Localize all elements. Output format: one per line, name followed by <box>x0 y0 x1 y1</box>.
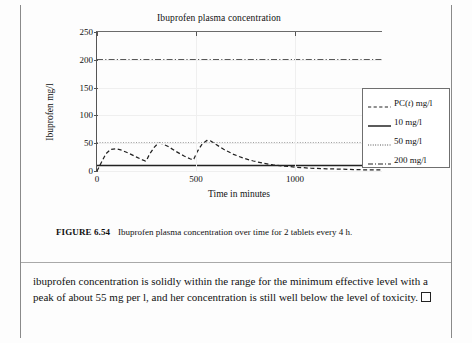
figure-6-54: Ibuprofen plasma concentration Ibuprofen… <box>20 5 452 262</box>
y-axis-tick-label: 200 <box>80 55 94 65</box>
gridline-horizontal <box>97 171 382 172</box>
chart-title: Ibuprofen plasma concentration <box>56 13 382 23</box>
y-axis-tick-label: 0 <box>89 166 94 176</box>
x-axis-tick-label: 0 <box>95 174 100 184</box>
figure-caption: FIGURE 6.54Ibuprofen plasma concentratio… <box>56 227 456 237</box>
y-axis-tick-mark <box>94 88 98 89</box>
gridline-horizontal <box>97 115 382 116</box>
x-axis-tick-mark <box>295 32 296 36</box>
legend-label-50: 50 mg/l <box>394 136 422 146</box>
y-axis-tick-label: 250 <box>80 27 94 37</box>
y-axis-tick-label: 100 <box>80 110 94 120</box>
legend-label-200: 200 mg/l <box>394 155 426 165</box>
legend-swatch-dotted <box>368 136 391 146</box>
chart-ibuprofen-plasma-concentration: Ibuprofen plasma concentration Ibuprofen… <box>56 27 382 197</box>
gridline-vertical <box>196 32 197 171</box>
y-axis-label: Ibuprofen mg/l <box>45 83 55 140</box>
x-axis-tick-mark <box>97 32 98 36</box>
legend-item-50: 50 mg/l <box>363 131 449 150</box>
y-axis-tick-mark <box>94 171 98 172</box>
figure-caption-label: FIGURE 6.54 <box>56 227 110 237</box>
legend-swatch-dashdot <box>368 155 391 165</box>
gridline-horizontal <box>97 143 382 144</box>
legend-item-10: 10 mg/l <box>363 112 449 131</box>
x-axis-tick-label: 1000 <box>286 174 304 184</box>
y-axis-tick-mark <box>94 143 98 144</box>
y-axis-tick-label: 150 <box>80 83 94 93</box>
legend-item-pct: PC(t) mg/l <box>363 93 449 112</box>
body-paragraph: ibuprofen concentration is solidly withi… <box>33 274 441 305</box>
legend-swatch-solid <box>368 117 391 127</box>
gridline-horizontal <box>97 88 382 89</box>
x-axis-tick-mark <box>196 32 197 36</box>
gridline-horizontal <box>97 60 382 61</box>
plot-area: 05010015020025005001000 <box>96 31 382 171</box>
series-pc-t-mg-l <box>97 140 382 171</box>
plot-curves <box>97 32 382 171</box>
document-page: Ibuprofen plasma concentration Ibuprofen… <box>0 0 472 343</box>
chart-legend: PC(t) mg/l 10 mg/l 50 mg/l 200 mg/l <box>362 88 450 168</box>
y-axis-tick-mark <box>94 115 98 116</box>
x-axis-tick-label: 500 <box>189 174 203 184</box>
legend-label-10: 10 mg/l <box>394 117 422 127</box>
legend-item-200: 200 mg/l <box>363 150 449 169</box>
qed-box-icon <box>421 292 431 302</box>
legend-swatch-dashed <box>368 98 391 108</box>
body-paragraph-text: ibuprofen concentration is solidly withi… <box>33 275 428 303</box>
y-axis-tick-label: 50 <box>84 138 93 148</box>
gridline-vertical <box>295 32 296 171</box>
figure-caption-text: Ibuprofen plasma concentration over time… <box>118 227 352 237</box>
legend-label-pct: PC(t) mg/l <box>394 98 432 108</box>
section-divider <box>21 262 451 263</box>
x-axis-label: Time in minutes <box>96 189 382 199</box>
y-axis-tick-mark <box>94 60 98 61</box>
